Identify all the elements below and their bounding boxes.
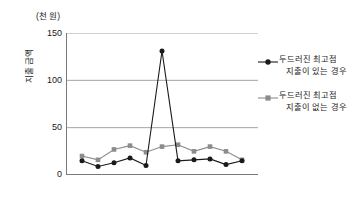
y-tick-label-50: 50 (28, 123, 62, 132)
legend-entry-with-peak: 두드러진 최고점 지출이 있는 경우 (258, 54, 363, 77)
y-tick-label-0: 0 (28, 170, 62, 179)
plot-area (66, 33, 258, 175)
legend-label-no-peak-line1: 두드러진 최고점 (279, 91, 337, 100)
legend-label-no-peak: 두드러진 최고점 지출이 없는 경우 (279, 90, 363, 113)
legend-marker-square-icon (258, 94, 278, 102)
y-tick-label-150: 150 (28, 29, 62, 38)
y-axis-tick-labels: 150 100 50 0 (24, 0, 62, 202)
y-tick-label-100: 100 (28, 76, 62, 85)
legend-entry-no-peak: 두드러진 최고점 지출이 없는 경우 (258, 90, 363, 113)
legend-label-with-peak-line2: 지출이 있는 경우 (279, 66, 363, 78)
gridlines (66, 33, 258, 128)
series-line-with-peak (80, 48, 245, 168)
expenditure-line-chart: (천 원) 지출 금액 150 100 50 0 두드러진 최고점 지출이 있는… (0, 0, 363, 202)
legend-label-with-peak-line1: 두드러진 최고점 (279, 55, 337, 64)
legend-label-with-peak: 두드러진 최고점 지출이 있는 경우 (279, 54, 363, 77)
plot-svg (66, 33, 258, 175)
chart-legend: 두드러진 최고점 지출이 있는 경우 두드러진 최고점 지출이 없는 경우 (258, 54, 363, 126)
legend-label-no-peak-line2: 지출이 없는 경우 (279, 102, 363, 114)
series-line-no-peak (80, 142, 245, 162)
legend-marker-circle-icon (258, 58, 278, 66)
